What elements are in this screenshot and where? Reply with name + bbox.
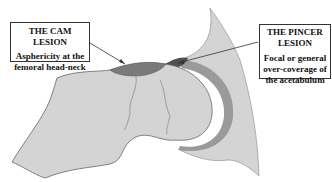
- cam-arrow: [90, 43, 125, 64]
- pincer-lesion-desc-3: the acetabulum: [260, 75, 330, 86]
- pincer-lesion-desc-2: over-coverage of: [260, 64, 330, 75]
- femur: [12, 63, 212, 178]
- pincer-lesion-label: THE PINCER LESION Focal or general over-…: [259, 24, 331, 79]
- cam-arrowhead: [119, 59, 125, 64]
- cam-lesion-label: THE CAM LESION Asphericity at the femora…: [10, 22, 90, 62]
- pincer-lesion-title-1: THE PINCER: [260, 27, 330, 38]
- pincer-lesion-desc-1: Focal or general: [260, 53, 330, 64]
- cam-lesion-desc-1: Asphericity at the: [11, 51, 89, 62]
- cam-lesion-title: THE CAM LESION: [11, 26, 89, 48]
- pincer-lesion-title-2: LESION: [260, 38, 330, 49]
- cam-lesion-desc-2: femoral head-neck: [11, 62, 89, 73]
